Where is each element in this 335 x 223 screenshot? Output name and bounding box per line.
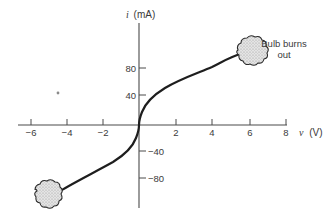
x-ticks — [31, 119, 286, 125]
x-axis-title: v (V) — [299, 127, 323, 138]
x-tick-label: −6 — [26, 127, 37, 138]
x-tick-label: 2 — [173, 127, 178, 138]
y-axis-title: i (mA) — [126, 9, 155, 20]
annotation-burnout: Bulb burns — [261, 38, 307, 49]
annotation-burnout-line2: out — [277, 49, 291, 60]
x-tick-label: −4 — [62, 127, 73, 138]
y-tick-label: −80 — [148, 173, 164, 184]
stray-dot — [57, 92, 60, 95]
y-tick-label: 80 — [125, 63, 136, 74]
iv-characteristic-chart: −6 −4 −2 2 4 6 8 80 40 −40 −80 i (mA) v … — [0, 0, 335, 223]
y-tick-label: −40 — [148, 146, 164, 157]
y-tick-labels: 80 40 −40 −80 — [125, 63, 164, 184]
x-tick-label: −2 — [98, 127, 109, 138]
x-tick-label: 8 — [283, 127, 288, 138]
burnout-blob-lower — [35, 180, 63, 209]
iv-curve — [60, 54, 240, 191]
y-tick-label: 40 — [125, 90, 136, 101]
x-tick-label: 6 — [247, 127, 252, 138]
x-tick-labels: −6 −4 −2 2 4 6 8 — [26, 127, 289, 138]
x-tick-label: 4 — [209, 127, 214, 138]
